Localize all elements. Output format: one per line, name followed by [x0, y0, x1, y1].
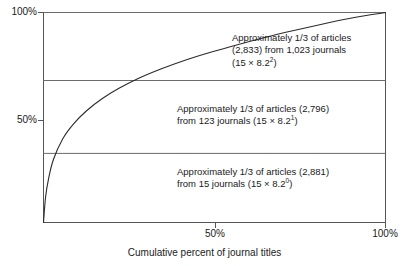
annotation-top-formula-after: ) [273, 57, 276, 68]
bradford-distribution-chart: 100% 50% 50% 100% Cumulative percent of … [0, 0, 409, 266]
y-axis-tick-label-50: 50% [3, 114, 37, 125]
annotation-top-formula-before: (15 × 8.2 [232, 57, 270, 68]
annotation-bottom-formula-after: ) [289, 178, 292, 189]
x-axis-tick-label-50: 50% [198, 228, 232, 239]
annotation-middle-third: Approximately 1/3 of articles (2,796) fr… [177, 103, 329, 128]
annotation-bottom-formula-before: from 15 journals (15 × 8.2 [177, 178, 286, 189]
annotation-top-line1: Approximately 1/3 of articles [232, 32, 351, 44]
annotation-bottom-line2: from 15 journals (15 × 8.20) [177, 178, 329, 190]
x-axis-tick-label-100: 100% [366, 228, 404, 239]
y-axis-tick-label-100: 100% [3, 6, 37, 17]
annotation-top-third: Approximately 1/3 of articles (2,833) fr… [232, 32, 351, 69]
annotation-bottom-line1: Approximately 1/3 of articles (2,881) [177, 166, 329, 178]
annotation-middle-line2: from 123 journals (15 × 8.21) [177, 115, 329, 127]
annotation-middle-formula-after: ) [294, 115, 297, 126]
annotation-top-line3: (15 × 8.22) [232, 57, 351, 69]
annotation-middle-line1: Approximately 1/3 of articles (2,796) [177, 103, 329, 115]
annotation-top-line2: (2,833) from 1,023 journals [232, 44, 351, 56]
annotation-middle-formula-before: from 123 journals (15 × 8.2 [177, 115, 291, 126]
annotation-bottom-third: Approximately 1/3 of articles (2,881) fr… [177, 166, 329, 191]
x-axis-title: Cumulative percent of journal titles [0, 247, 409, 259]
